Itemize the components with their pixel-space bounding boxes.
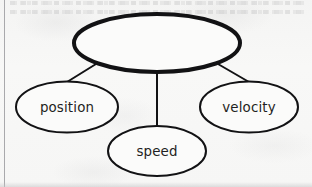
node-position-label: position: [40, 100, 94, 115]
node-speed-label: speed: [136, 144, 177, 159]
edge-root-position: [67, 64, 96, 82]
node-velocity-label: velocity: [222, 100, 276, 115]
node-position[interactable]: position: [16, 82, 118, 133]
node-root-ellipse: [74, 14, 240, 72]
edge-root-velocity: [218, 64, 249, 82]
node-velocity[interactable]: velocity: [200, 82, 298, 133]
node-root[interactable]: [74, 14, 240, 72]
concept-map-diagram: position speed velocity: [0, 0, 312, 187]
node-speed[interactable]: speed: [108, 126, 206, 176]
scanned-page: position speed velocity: [0, 0, 312, 187]
